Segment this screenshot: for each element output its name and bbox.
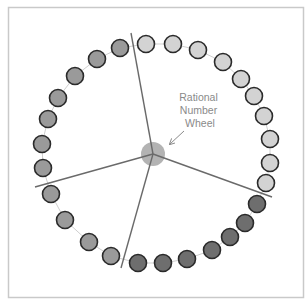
wheel-circle-light [165, 36, 182, 53]
wheel-circle-light [262, 155, 279, 172]
wheel-circle-medium [34, 136, 51, 153]
wheel-circle-dark [130, 255, 147, 272]
wheel-circle-medium [40, 111, 57, 128]
wheel-label-line-1: Rational [179, 91, 218, 103]
wheel-circle-light [233, 71, 250, 88]
wheel-circle-medium [103, 248, 120, 265]
wheel-circle-medium [50, 90, 67, 107]
wheel-circle-medium [67, 68, 84, 85]
wheel-circle-light [258, 175, 275, 192]
wheel-circle-medium [43, 186, 60, 203]
wheel-circle-dark [237, 215, 254, 232]
wheel-circle-dark [222, 229, 239, 246]
wheel-circle-light [256, 108, 273, 125]
wheel-circle-light [215, 54, 232, 71]
wheel-circle-light [246, 88, 263, 105]
wheel-label-line-3: Wheel [185, 117, 215, 129]
wheel-circle-dark [179, 251, 196, 268]
wheel-circle-medium [81, 234, 98, 251]
wheel-circle-light [190, 42, 207, 59]
wheel-circle-dark [155, 255, 172, 272]
wheel-circle-medium [89, 51, 106, 68]
rational-number-wheel-diagram: Rational Number Wheel [0, 0, 306, 303]
wheel-circle-light [262, 131, 279, 148]
wheel-circle-medium [112, 40, 129, 57]
wheel-circle-dark [249, 196, 266, 213]
wheel-label-line-2: Number [180, 104, 218, 116]
wheel-circle-medium [35, 160, 52, 177]
wheel-circle-dark [204, 242, 221, 259]
wheel-label: Rational Number Wheel [179, 91, 220, 129]
wheel-circle-medium [57, 212, 74, 229]
wheel-circle-light [138, 36, 155, 53]
